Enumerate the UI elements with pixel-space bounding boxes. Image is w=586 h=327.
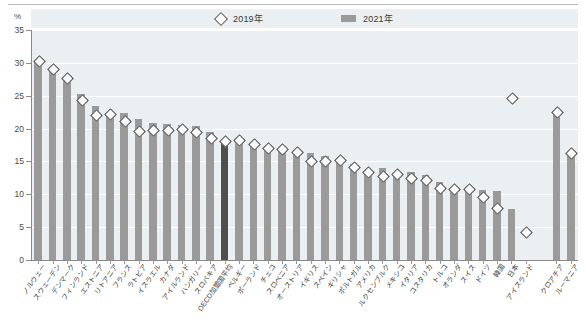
bar xyxy=(106,115,113,260)
x-tick-mark xyxy=(325,261,326,264)
gridline xyxy=(31,30,578,31)
x-tick-mark xyxy=(239,261,240,264)
top-divider xyxy=(8,4,578,5)
x-tick-mark xyxy=(311,261,312,264)
y-tick-label: 35 xyxy=(2,25,24,35)
y-tick-label: 5 xyxy=(2,222,24,232)
diamond-marker-icon xyxy=(214,11,228,25)
x-tick-mark xyxy=(96,261,97,264)
y-tick-mark xyxy=(26,30,31,31)
bar xyxy=(508,209,515,260)
x-tick-label: 日本 xyxy=(506,263,520,278)
bar xyxy=(178,125,185,260)
x-tick-mark xyxy=(67,261,68,264)
x-tick-mark xyxy=(268,261,269,264)
x-tick-mark xyxy=(440,261,441,264)
x-tick-mark xyxy=(411,261,412,264)
bar xyxy=(293,150,300,260)
bar xyxy=(450,188,457,260)
bar xyxy=(221,140,228,260)
x-tick-mark xyxy=(182,261,183,264)
bar xyxy=(49,71,56,260)
y-tick-label: 15 xyxy=(2,156,24,166)
bar xyxy=(192,126,199,260)
x-tick-mark xyxy=(454,261,455,264)
bar xyxy=(307,153,314,260)
x-tick-label: 韓国 xyxy=(492,263,506,278)
x-tick-mark xyxy=(196,261,197,264)
bar xyxy=(336,160,343,260)
bar xyxy=(465,189,472,260)
bar xyxy=(235,142,242,260)
y-tick-mark xyxy=(26,227,31,228)
gridline xyxy=(31,96,578,97)
bar xyxy=(135,119,142,260)
chart-legend: 2019年 2021年 xyxy=(31,9,578,28)
x-tick-mark xyxy=(53,261,54,264)
y-tick-mark xyxy=(26,194,31,195)
y-axis-line xyxy=(31,30,32,260)
y-tick-label: 30 xyxy=(2,58,24,68)
bar xyxy=(264,148,271,260)
y-tick-mark xyxy=(26,63,31,64)
bar xyxy=(163,124,170,260)
bar xyxy=(149,123,156,260)
bar xyxy=(278,150,285,260)
x-tick-mark xyxy=(397,261,398,264)
y-tick-mark xyxy=(26,161,31,162)
x-tick-mark xyxy=(483,261,484,264)
bar xyxy=(34,63,41,260)
legend-item-2021: 2021年 xyxy=(341,12,393,25)
x-tick-mark xyxy=(571,261,572,264)
bar xyxy=(422,175,429,260)
y-tick-label: 10 xyxy=(2,189,24,199)
y-axis-unit-label: % xyxy=(14,12,21,21)
x-axis-line xyxy=(31,260,578,261)
y-tick-mark xyxy=(26,129,31,130)
gridline xyxy=(31,63,578,64)
x-tick-mark xyxy=(139,261,140,264)
y-tick-label: 0 xyxy=(2,255,24,265)
bar xyxy=(567,153,574,260)
legend-label-2021: 2021年 xyxy=(363,12,393,25)
bar xyxy=(364,172,371,260)
y-tick-label: 20 xyxy=(2,124,24,134)
x-tick-mark xyxy=(526,261,527,264)
x-tick-mark xyxy=(497,261,498,264)
bar xyxy=(120,113,127,260)
bar xyxy=(321,156,328,260)
bar xyxy=(553,112,560,261)
chart-page: % 2019年 2021年 35302520151050 ノルウェースウェーデン… xyxy=(0,0,586,327)
legend-item-2019: 2019年 xyxy=(216,12,263,25)
bar xyxy=(92,106,99,260)
bar xyxy=(350,164,357,260)
x-tick-mark xyxy=(225,261,226,264)
x-tick-mark xyxy=(354,261,355,264)
y-tick-label: 25 xyxy=(2,91,24,101)
bar-swatch-icon xyxy=(341,15,356,22)
bar xyxy=(63,79,70,260)
x-tick-mark xyxy=(110,261,111,264)
y-tick-mark xyxy=(26,260,31,261)
bar xyxy=(206,132,213,260)
legend-label-2019: 2019年 xyxy=(233,12,263,25)
x-tick-mark xyxy=(153,261,154,264)
bar xyxy=(250,144,257,260)
y-tick-mark xyxy=(26,96,31,97)
x-tick-mark xyxy=(368,261,369,264)
bar xyxy=(393,173,400,260)
x-tick-mark xyxy=(282,261,283,264)
bar xyxy=(77,94,84,260)
